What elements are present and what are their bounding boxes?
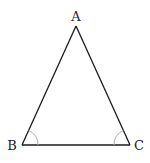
angle-mark-c <box>114 130 123 145</box>
triangle-diagram: A B C <box>0 0 150 163</box>
vertex-label-a: A <box>70 9 81 24</box>
side-ac <box>76 26 130 145</box>
vertex-label-c: C <box>134 138 144 153</box>
side-ab <box>22 26 76 145</box>
triangle-abc <box>22 26 130 145</box>
angle-mark-b <box>29 130 38 145</box>
vertex-label-b: B <box>7 138 17 153</box>
